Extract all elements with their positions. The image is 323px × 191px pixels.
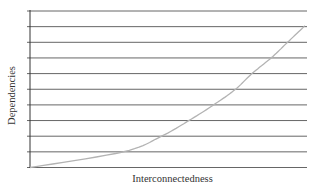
x-axis-label: Interconnectedness (0, 173, 323, 184)
y-axis-label: Dependencies (6, 66, 17, 125)
data-curve (30, 27, 304, 168)
chart-canvas (0, 0, 323, 191)
gridlines (27, 11, 307, 168)
y-axis-label-container: Dependencies (0, 40, 22, 150)
